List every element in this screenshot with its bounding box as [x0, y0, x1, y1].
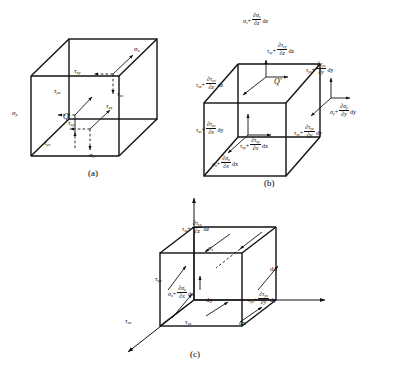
- label-c-tau-yx: τyx: [155, 276, 162, 284]
- label-dim-dz: dz: [270, 266, 277, 273]
- label-tau-zx: τzx: [106, 103, 112, 111]
- label-sigma-y-inc: σy+∂σy∂ydy: [330, 103, 356, 117]
- label-dim-dx: dx: [239, 320, 246, 327]
- label-c-tau-yx-inc: τyx+∂τyx∂ydy: [248, 291, 276, 305]
- label-tau-zy: τzy: [68, 120, 74, 128]
- label-sigma-x: σx: [134, 46, 140, 54]
- label-tau-zx-inc: τzx+∂τzx∂zdz: [196, 76, 223, 90]
- panel-c-caption: (c): [190, 349, 200, 359]
- label-tau-zy-inc: τzy+∂τzy∂zdz: [267, 42, 294, 56]
- label-tau-yx-inc: τyx+∂τyx∂ydy: [294, 124, 322, 138]
- label-tau-xy: τxy: [74, 68, 81, 76]
- panel-a-cube: [31, 39, 157, 156]
- label-sigma-z-inc: σz+∂σz∂zdz: [243, 12, 268, 26]
- panel-a-caption: (a): [88, 168, 98, 178]
- label-sigma-z: σz: [89, 152, 94, 160]
- label-tau-yx: τyx: [54, 88, 61, 96]
- label-tau-xz: τxz: [117, 91, 123, 99]
- label-point-q-prime: Q′: [274, 78, 282, 86]
- label-c-sigma-z: σz: [208, 245, 213, 253]
- figure-canvas: σy τyx τyz σx τxy τxz σz τzy τzx Q (a) σ…: [0, 0, 397, 381]
- label-tau-yz-inc: τyz+∂τyz∂ydy: [306, 61, 333, 75]
- label-tau-yz: τyz: [44, 140, 50, 148]
- label-sigma-y: σy: [12, 110, 18, 118]
- label-tau-xz-inc: τxz+∂τxz∂xdy: [196, 121, 223, 135]
- stress-element-diagram: [0, 0, 397, 381]
- label-c-tau-zx: τzx: [185, 319, 191, 327]
- label-dim-dy: dy: [206, 297, 213, 304]
- label-sigma-x-inc: σx+∂σx∂xdx: [212, 155, 238, 169]
- label-c-sigma-x-inc: σx+∂σx∂xdx: [168, 285, 194, 299]
- label-c-tau-zx-left: τzx: [125, 318, 131, 326]
- label-tau-xy-inc: τxy+∂τxy∂xdx: [240, 137, 268, 151]
- label-point-q: Q: [63, 113, 69, 121]
- panel-c-stress-arrows: [168, 232, 278, 322]
- panel-b-caption: (b): [264, 178, 275, 188]
- label-c-tau-zx-inc: τzx+∂τzx∂zdz: [182, 220, 209, 234]
